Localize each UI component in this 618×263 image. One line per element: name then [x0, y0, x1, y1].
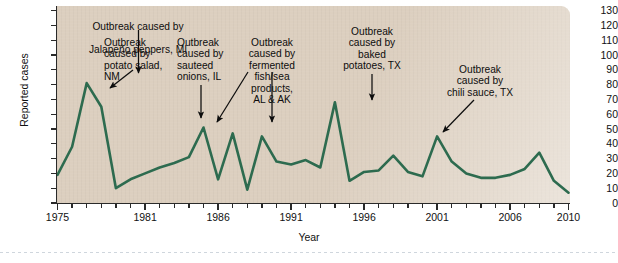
y-tick: [51, 84, 57, 85]
x-tick: [436, 203, 437, 210]
y-tick: [51, 128, 57, 129]
x-tick: [524, 203, 525, 208]
x-tick: [144, 203, 145, 210]
y-tick-label: 80: [572, 79, 618, 89]
x-tick: [115, 203, 116, 208]
x-tick: [261, 203, 262, 208]
y-tick: [51, 143, 57, 144]
x-tick: [466, 203, 467, 208]
x-tick-label: 2010: [557, 211, 580, 223]
x-tick: [232, 203, 233, 208]
y-tick-label: 0: [572, 198, 618, 208]
y-axis-title: Reported cases: [18, 38, 30, 142]
y-tick: [51, 40, 57, 41]
x-tick-label: 2001: [425, 211, 448, 223]
x-tick: [349, 203, 350, 208]
x-tick: [276, 203, 277, 208]
x-tick-label: 1991: [279, 211, 302, 223]
x-tick-label: 1986: [206, 211, 229, 223]
x-axis-title: Year: [0, 231, 618, 243]
y-tick-label: 40: [572, 138, 618, 148]
x-tick: [305, 203, 306, 208]
x-tick: [247, 203, 248, 208]
annotation-jalapeno-line1: Outbreak caused by: [62, 21, 214, 32]
x-tick-label: 2006: [498, 211, 521, 223]
x-tick: [101, 203, 102, 208]
x-tick: [290, 203, 291, 210]
x-tick: [553, 203, 554, 208]
x-tick: [320, 203, 321, 208]
annotation-sauteed-onions: Outbreak caused by sauteed onions, IL: [177, 37, 243, 83]
x-tick: [451, 203, 452, 208]
x-tick: [509, 203, 510, 210]
y-tick-label: 90: [572, 64, 618, 74]
x-tick: [57, 203, 58, 210]
y-tick-label: 50: [572, 124, 618, 134]
page-bottom-edge: [0, 252, 618, 253]
x-tick: [480, 203, 481, 208]
x-tick-label: 1981: [133, 211, 156, 223]
x-tick: [188, 203, 189, 208]
annotation-baked-potatoes: Outbreak caused by baked potatoes, TX: [329, 26, 415, 72]
annotation-fermented-fish: Outbreak caused by fermented fish/sea pr…: [238, 37, 306, 105]
x-tick: [393, 203, 394, 208]
y-tick-label: 110: [572, 35, 618, 45]
x-tick: [203, 203, 204, 208]
x-tick: [86, 203, 87, 208]
x-tick: [159, 203, 160, 208]
annotation-potato-salad: Outbreak caused by potato salad, NM: [104, 37, 188, 83]
x-tick: [539, 203, 540, 208]
y-tick-label: 70: [572, 94, 618, 104]
y-tick-label: 30: [572, 153, 618, 163]
y-tick-label: 10: [572, 183, 618, 193]
x-tick: [130, 203, 131, 208]
y-tick: [51, 173, 57, 174]
x-tick: [378, 203, 379, 208]
annotation-chili-sauce: Outbreak caused by chili sauce, TX: [432, 64, 528, 98]
y-tick: [51, 114, 57, 115]
y-tick: [51, 25, 57, 26]
x-tick: [568, 203, 569, 210]
y-tick-label: 20: [572, 168, 618, 178]
y-tick-label: 100: [572, 50, 618, 60]
y-tick: [51, 10, 57, 11]
chart-figure: 0102030405060708090100110120130 19751981…: [0, 0, 618, 263]
x-tick: [217, 203, 218, 210]
x-tick: [71, 203, 72, 208]
y-tick-label: 120: [572, 20, 618, 30]
y-tick: [51, 54, 57, 55]
y-tick-label: 130: [572, 5, 618, 15]
y-axis-line: [56, 6, 57, 204]
x-tick-label: 1996: [352, 211, 375, 223]
x-tick: [422, 203, 423, 208]
x-tick: [174, 203, 175, 208]
x-tick-label: 1975: [46, 211, 69, 223]
y-tick-label: 60: [572, 109, 618, 119]
x-tick: [363, 203, 364, 210]
x-tick: [407, 203, 408, 208]
x-axis-line: [56, 203, 570, 204]
y-tick: [51, 99, 57, 100]
x-tick: [495, 203, 496, 208]
y-tick: [51, 188, 57, 189]
y-tick: [51, 69, 57, 70]
y-tick: [51, 158, 57, 159]
x-tick: [334, 203, 335, 208]
